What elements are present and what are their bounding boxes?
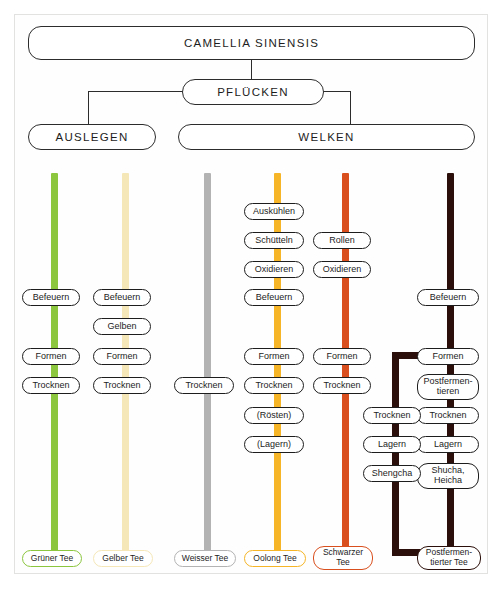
step-oolong-5: Trocknen <box>244 377 304 394</box>
stripe-white <box>204 173 211 556</box>
step-yellow-3: Trocknen <box>93 377 151 394</box>
step-oolong-2: Oxidieren <box>244 261 304 278</box>
step-oolong-0: Auskühlen <box>244 203 304 220</box>
step-postfermented-3: Trocknen <box>417 407 479 424</box>
step-postfermented-branch-2: Shengcha <box>363 465 421 482</box>
step-oolong-6: (Rösten) <box>244 407 304 424</box>
result-white: Weisser Tee <box>174 550 236 567</box>
header-root-label: CAMELLIA SINENSIS <box>184 37 319 49</box>
step-oolong-1: Schütteln <box>244 232 304 249</box>
step-postfermented-branch-1: Lagern <box>363 436 421 453</box>
header-box-root: CAMELLIA SINENSIS <box>28 26 475 60</box>
header-pick-label: PFLÜCKEN <box>217 86 289 98</box>
root-to-pick <box>251 60 252 79</box>
step-green-2: Trocknen <box>22 377 80 394</box>
step-black-0: Rollen <box>313 232 371 249</box>
header-spread-label: AUSLEGEN <box>55 131 128 143</box>
step-oolong-3: Befeuern <box>244 289 304 306</box>
step-yellow-1: Gelben <box>93 318 151 335</box>
header-wither-label: WELKEN <box>298 131 354 143</box>
step-postfermented-1: Formen <box>417 348 479 365</box>
step-black-3: Trocknen <box>313 377 371 394</box>
result-yellow: Gelber Tee <box>93 550 153 567</box>
header-box-spread: AUSLEGEN <box>28 124 156 150</box>
step-oolong-7: (Lagern) <box>244 436 304 453</box>
step-green-0: Befeuern <box>22 289 80 306</box>
step-yellow-2: Formen <box>93 348 151 365</box>
step-postfermented-branch-0: Trocknen <box>363 407 421 424</box>
step-yellow-0: Befeuern <box>93 289 151 306</box>
pick-right-horizontal <box>323 91 351 92</box>
result-postfermented: Postfermen- tierter Tee <box>417 546 481 570</box>
step-oolong-4: Formen <box>244 348 304 365</box>
header-box-wither: WELKEN <box>178 124 475 150</box>
result-oolong: Oolong Tee <box>244 550 306 567</box>
step-white-0: Trocknen <box>174 377 234 394</box>
result-green: Grüner Tee <box>22 550 82 567</box>
step-postfermented-5: Shucha, Heicha <box>417 463 479 489</box>
pick-right-vertical <box>350 91 351 124</box>
pick-left-horizontal <box>88 91 183 92</box>
stripe-postfermented-branch <box>392 356 399 556</box>
header-box-pick: PFLÜCKEN <box>182 79 324 105</box>
tea-processing-flowchart: CAMELLIA SINENSIS PFLÜCKEN AUSLEGEN WELK… <box>0 0 504 596</box>
step-postfermented-2: Postfermen- tieren <box>417 374 479 400</box>
step-green-1: Formen <box>22 348 80 365</box>
result-black: Schwarzer Tee <box>313 546 373 570</box>
step-postfermented-0: Befeuern <box>417 289 479 306</box>
step-black-1: Oxidieren <box>313 261 371 278</box>
step-postfermented-4: Lagern <box>417 436 479 453</box>
step-black-2: Formen <box>313 348 371 365</box>
pick-left-vertical <box>88 91 89 124</box>
